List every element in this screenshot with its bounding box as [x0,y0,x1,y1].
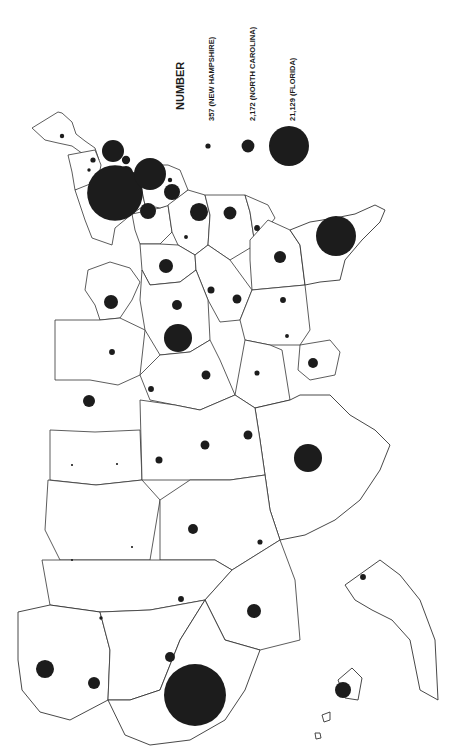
legend-symbol [269,126,309,166]
symbol-illinois [164,324,192,352]
symbol-wisconsin [109,349,115,355]
symbol-west-virginia [184,235,188,239]
symbol-alaska [360,574,366,580]
state-outline-hawaii-islet-2 [315,733,321,739]
symbol-wyoming [131,546,133,548]
state-outline-michigan [85,262,140,320]
symbol-north-carolina [224,207,237,220]
symbol-michigan [104,295,118,309]
legend-entry-label: 357 (NEW HAMPSHIRE) [207,36,216,121]
symbol-vermont [87,168,90,171]
symbol-montana [71,559,73,561]
state-outline-washington-oregon [18,605,110,720]
symbol-nevada [165,652,175,662]
symbol-florida [316,216,356,256]
symbol-arkansas [254,370,259,375]
symbol-nebraska [155,456,162,463]
symbol-tennessee [233,295,242,304]
symbol-louisiana [308,358,318,368]
symbol-new-mexico [257,539,262,544]
legend-title: NUMBER [174,62,186,110]
symbol-missouri [202,371,211,380]
state-outline-wisconsin-minnesota [55,318,145,385]
symbol-arizona [247,604,261,618]
legend: NUMBER 357 (NEW HAMPSHIRE) 2,172 (NORTH … [174,26,309,166]
state-outline-arkansas [235,340,290,408]
symbol-oklahoma [244,431,253,440]
symbol-north-dakota [71,464,73,466]
symbol-minnesota [83,395,95,407]
symbol-georgia [274,251,286,263]
state-outline-dakotas [50,430,142,485]
symbol-kentucky [207,286,214,293]
symbol-rhode-island [122,156,130,164]
symbol-massachusetts [102,140,124,162]
symbol-california [164,664,226,726]
symbol-ohio [159,259,173,273]
symbol-maine [60,134,64,138]
state-outline-hawaii-islet [322,712,330,722]
state-outline-montana-wyoming [45,480,160,560]
symbol-texas [294,444,322,472]
state-outline-louisiana [298,340,340,380]
symbol-utah [178,596,184,602]
symbol-new-jersey [134,158,166,190]
symbol-new-hampshire [90,157,95,162]
state-outline-texas [255,395,390,540]
legend-entry-label: 21,129 (FLORIDA) [288,57,297,121]
symbol-delaware [168,178,172,182]
symbol-iowa [148,386,154,392]
symbol-hawaii [335,682,351,698]
symbol-idaho [99,616,102,619]
symbol-maryland [164,184,180,200]
legend-symbols [205,126,309,166]
symbol-indiana [172,300,182,310]
symbol-oregon [88,677,100,689]
symbol-alabama [280,297,286,303]
symbol-south-carolina [254,225,260,231]
symbol-washington [36,660,54,678]
legend-symbol [205,143,210,148]
legend-symbol [242,140,255,153]
symbol-kansas [201,441,210,450]
state-outline-alabama-mississippi [240,285,310,345]
symbol-south-dakota [116,463,118,465]
symbol-mississippi [285,334,289,338]
us-proportional-symbol-map: NUMBER 357 (NEW HAMPSHIRE) 2,172 (NORTH … [0,0,452,755]
symbol-virginia [190,203,208,221]
legend-entry-label: 2,172 (NORTH CAROLINA) [248,26,257,121]
symbol-pennsylvania [140,203,156,219]
symbol-colorado [188,524,198,534]
